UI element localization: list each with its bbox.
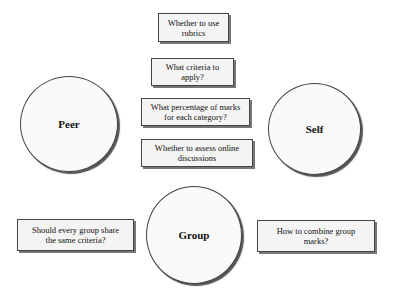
- circle-group: Group: [146, 186, 242, 284]
- circle-group-label: Group: [179, 229, 210, 241]
- circle-peer-label: Peer: [58, 118, 79, 130]
- box-group-share-criteria-text: Should every group share the same criter…: [28, 225, 123, 245]
- circle-self-label: Self: [306, 123, 324, 135]
- box-online-discussions: Whether to assess online discussions: [141, 139, 253, 167]
- box-combine-group-marks: How to combine group marks?: [257, 220, 375, 252]
- box-percentage-text: What percentage of marks for each catego…: [146, 102, 245, 122]
- box-criteria: What criteria to apply?: [151, 58, 234, 86]
- circle-self: Self: [268, 83, 361, 175]
- circle-peer: Peer: [20, 76, 118, 172]
- box-criteria-text: What criteria to apply?: [156, 62, 229, 82]
- box-percentage: What percentage of marks for each catego…: [141, 98, 250, 126]
- box-combine-group-marks-text: How to combine group marks?: [272, 226, 360, 246]
- box-online-discussions-text: Whether to assess online discussions: [146, 143, 248, 163]
- box-group-share-criteria: Should every group share the same criter…: [17, 219, 134, 251]
- box-use-rubrics: Whether to use rubrics: [158, 13, 229, 42]
- box-use-rubrics-text: Whether to use rubrics: [163, 18, 224, 38]
